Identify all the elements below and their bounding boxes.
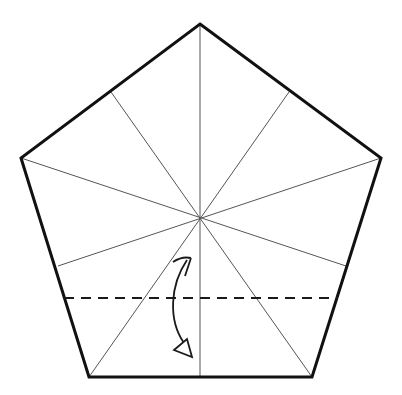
crease-line — [111, 92, 312, 377]
pentagon-outline — [21, 24, 381, 377]
crease-lines — [21, 24, 381, 377]
pentagon-crease-pattern — [0, 0, 402, 395]
crease-line — [89, 92, 289, 377]
fold-arrow-curve — [173, 260, 187, 343]
fold-arrow-hollow-head — [174, 339, 192, 357]
origami-diagram — [0, 0, 402, 395]
fold-arrow-icon — [173, 258, 192, 358]
crease-line — [21, 158, 346, 266]
crease-line — [58, 158, 381, 266]
